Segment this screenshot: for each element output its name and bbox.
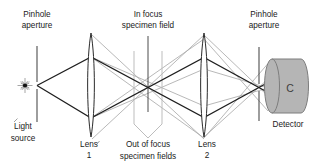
lens-2-shape [201,33,208,137]
out-of-focus-ray [204,88,268,106]
lens-1-label-line2: 1 [87,151,92,160]
diagram-canvas: C Pinhole aperture In focus specimen fie… [0,0,313,167]
light-source-label-line2: source [11,134,36,143]
pinhole-aperture-right-label-line2: aperture [249,21,280,30]
light-source-point [23,83,27,87]
in-focus-label-line1: In focus [134,10,163,19]
detector-marking-label: C [286,82,294,94]
out-of-focus-ray [204,69,268,88]
detector-label: Detector [273,120,304,129]
in-focus-rays [37,57,268,118]
detector-cylinder-face [265,59,280,113]
bottom-labels: Light source Lens 1 Out of focus specime… [11,120,304,161]
out-of-focus-label-line1: Out of focus [126,140,170,149]
out-of-focus-pointer-chevron [134,124,162,138]
top-labels: Pinhole aperture In focus specimen field… [22,10,280,30]
lens-2-label-line2: 2 [205,151,210,160]
in-focus-label-line2: specimen field [122,21,175,30]
lens-1-shape [88,33,95,137]
pinhole-aperture-left-label-line2: aperture [22,21,53,30]
out-of-focus-rays-right [204,35,268,138]
pinhole-aperture-left-label-line1: Pinhole [23,10,51,19]
lens-2-label-line1: Lens [198,140,216,149]
in-focus-ray-upper [37,57,268,118]
pinhole-aperture-right-label-line1: Pinhole [250,10,278,19]
lens-1-label-line1: Lens [80,140,98,149]
out-of-focus-label-line2: specimen fields [120,152,176,161]
confocal-microscope-diagram: C Pinhole aperture In focus specimen fie… [0,0,313,167]
light-source-label-line1: Light [14,122,32,131]
detector-cylinder: C [265,59,309,113]
